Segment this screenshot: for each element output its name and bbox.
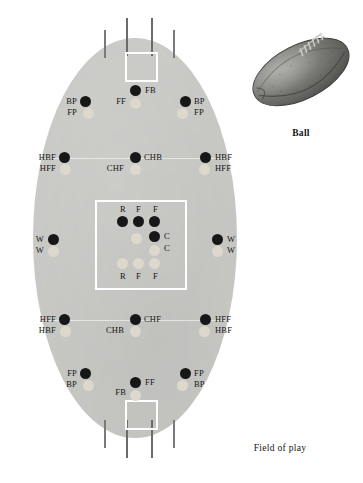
player-dot-centre-light-a	[131, 233, 142, 244]
player-dot-hbf-left	[59, 152, 70, 163]
label-follower1-top: F	[136, 205, 141, 214]
label-fb-top: FB	[145, 86, 156, 95]
player-dot-wing-right-b	[212, 246, 223, 257]
player-dot-chf-top	[130, 164, 141, 175]
player-dot-wing-right-a	[212, 234, 223, 245]
player-dot-hff-left	[60, 164, 71, 175]
player-dot-centre-light-b	[149, 245, 160, 256]
player-dot-chb-top	[130, 152, 141, 163]
label-hbf-right-bottom: HBF	[215, 326, 232, 335]
label-hff-left: HFF	[30, 164, 56, 173]
player-dot-follower2-light	[149, 258, 160, 269]
player-dot-bp-left-bottom	[83, 380, 94, 391]
figure-canvas: BP FP FB FF BP FP HBF HFF CHB CHF HBF HF…	[0, 0, 363, 483]
label-hff-left-bottom: HFF	[30, 315, 56, 324]
player-dot-hff-left-bottom	[59, 314, 70, 325]
behind-post-top-left	[104, 30, 106, 58]
goal-square-top	[125, 52, 158, 82]
label-hbf-right: HBF	[215, 153, 232, 162]
label-wing-left-a: W	[26, 235, 44, 244]
label-hff-right-bottom: HFF	[215, 315, 231, 324]
label-bp-left: BP	[57, 97, 77, 106]
ball-caption: Ball	[245, 128, 357, 138]
player-dot-follower1-dark	[133, 216, 144, 227]
center-square	[95, 200, 187, 290]
behind-post-top-right	[173, 30, 175, 58]
player-dot-bp-right	[180, 96, 191, 107]
label-wing-left-b: W	[26, 246, 44, 255]
player-dot-fp-right	[177, 108, 188, 119]
goal-post-top-inner-right	[151, 18, 153, 56]
label-follower1-bottom: F	[136, 272, 141, 281]
label-bp-right: BP	[194, 97, 205, 106]
label-chf-bottom: CHF	[144, 315, 161, 324]
label-fp-left: FP	[57, 108, 77, 117]
label-bp-left-bottom: BP	[57, 380, 77, 389]
player-dot-centre-dark	[149, 231, 160, 242]
player-dot-wing-left-b	[48, 246, 59, 257]
player-dot-fp-right-bottom	[180, 368, 191, 379]
player-dot-wing-left-a	[48, 234, 59, 245]
label-centre-a: C	[164, 232, 170, 241]
label-ruck-top: R	[120, 205, 126, 214]
player-dot-fb-bottom	[130, 390, 141, 401]
player-dot-ruck-light	[117, 258, 128, 269]
player-dot-bp-left	[80, 96, 91, 107]
label-wing-right-b: W	[227, 246, 235, 255]
player-dot-fp-left-bottom	[80, 368, 91, 379]
player-dot-hbf-right-bottom	[199, 326, 210, 337]
ball-highlight	[245, 24, 357, 119]
label-follower2-top: F	[153, 205, 158, 214]
label-centre-b: C	[164, 244, 170, 253]
label-bp-right-bottom: BP	[194, 380, 205, 389]
player-dot-ff-bottom	[130, 377, 141, 388]
goal-post-top-inner-left	[126, 18, 128, 56]
behind-post-bottom-right	[173, 420, 175, 448]
player-dot-fp-left	[83, 108, 94, 119]
label-hbf-left-bottom: HBF	[30, 326, 56, 335]
label-chf-top: CHF	[96, 164, 124, 173]
label-fp-left-bottom: FP	[57, 369, 77, 378]
player-dot-follower1-light	[133, 258, 144, 269]
player-dot-hff-right-bottom	[200, 314, 211, 325]
label-hff-right: HFF	[215, 164, 231, 173]
player-dot-hbf-right	[200, 152, 211, 163]
label-chb-top: CHB	[144, 153, 162, 162]
field-of-play-caption: Field of play	[215, 443, 345, 453]
player-dot-ff-top	[130, 98, 141, 109]
goal-square-bottom	[125, 400, 158, 430]
label-wing-right-a: W	[227, 235, 235, 244]
label-fp-right-bottom: FP	[194, 369, 204, 378]
player-dot-bp-right-bottom	[177, 380, 188, 391]
player-dot-fb-top	[130, 85, 141, 96]
label-follower2-bottom: F	[153, 272, 158, 281]
player-dot-hbf-left-bottom	[60, 326, 71, 337]
label-ff-top: FF	[104, 97, 126, 106]
label-fb-bottom: FB	[104, 388, 126, 397]
player-dot-chf-bottom	[130, 314, 141, 325]
behind-post-bottom-left	[104, 420, 106, 448]
ball-illustration	[245, 22, 357, 122]
ball-svg	[245, 22, 357, 122]
player-dot-chb-bottom	[130, 326, 141, 337]
player-dot-follower2-dark	[149, 216, 160, 227]
ball-body-group	[245, 24, 357, 119]
label-chb-bottom: CHB	[96, 326, 124, 335]
label-hbf-left: HBF	[30, 153, 56, 162]
player-dot-hff-right	[199, 164, 210, 175]
label-ruck-bottom: R	[120, 272, 126, 281]
label-fp-right: FP	[194, 108, 204, 117]
player-dot-ruck-dark	[117, 216, 128, 227]
label-ff-bottom: FF	[145, 378, 155, 387]
